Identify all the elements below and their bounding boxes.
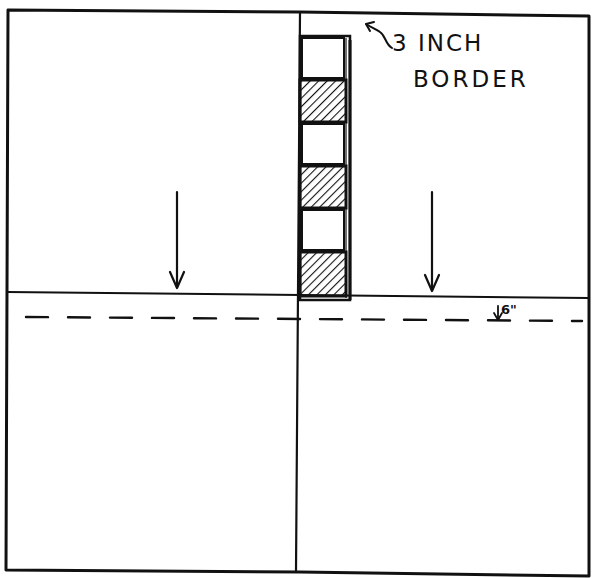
border-strip bbox=[300, 36, 350, 300]
border-square-plain bbox=[302, 38, 344, 78]
border-square-hatched bbox=[300, 166, 346, 208]
border-square-plain bbox=[302, 124, 344, 164]
border-square-plain bbox=[302, 210, 344, 250]
border-pointer-arrow-icon bbox=[366, 22, 392, 48]
border-label-line2: BORDER bbox=[413, 68, 529, 91]
border-square-hatched bbox=[300, 80, 346, 122]
border-square-hatched bbox=[300, 252, 346, 296]
right-down-arrow-icon bbox=[425, 192, 439, 291]
border-label-line1: 3 INCH bbox=[392, 32, 483, 55]
left-down-arrow-icon bbox=[170, 192, 184, 288]
offset-label: 6" bbox=[501, 303, 517, 316]
